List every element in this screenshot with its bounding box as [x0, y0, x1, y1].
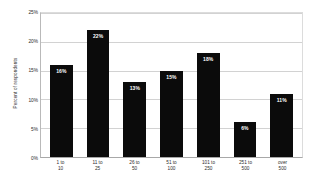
bar-chart: Percent of respondents 0%5%10%15%20%25% …: [0, 0, 310, 196]
x-axis-tick-labels: 1 to 1011 to 2526 to 5051 to 100101 to 2…: [40, 160, 303, 184]
y-axis-tick-label: 10%: [16, 97, 38, 102]
y-axis-tick-label: 0%: [16, 156, 38, 161]
bar-value-label: 6%: [234, 125, 257, 131]
bar-slot: 13%: [116, 13, 153, 157]
bar-series: 16%22%13%15%18%6%11%: [41, 13, 302, 157]
bar-value-label: 18%: [197, 56, 220, 62]
bar-slot: 11%: [263, 13, 300, 157]
bar[interactable]: 13%: [123, 82, 146, 157]
x-axis-tick-label: 26 to 50: [116, 160, 153, 184]
bar-value-label: 16%: [50, 68, 73, 74]
bar[interactable]: 18%: [197, 53, 220, 157]
y-axis-tick-labels: 0%5%10%15%20%25%: [16, 12, 38, 158]
bar-slot: 16%: [43, 13, 80, 157]
x-axis-tick-label: 51 to 100: [153, 160, 190, 184]
x-axis-tick-label: 101 to 250: [190, 160, 227, 184]
y-axis-tick-label: 15%: [16, 68, 38, 73]
bar[interactable]: 16%: [50, 65, 73, 157]
bar[interactable]: 6%: [234, 122, 257, 157]
y-axis-tick-label: 25%: [16, 10, 38, 15]
x-axis-tick-label: 11 to 25: [79, 160, 116, 184]
plot-area: 16%22%13%15%18%6%11%: [40, 12, 303, 158]
bar-value-label: 15%: [160, 74, 183, 80]
bar-slot: 22%: [80, 13, 117, 157]
bar-value-label: 11%: [270, 97, 293, 103]
x-axis-tick-label: over 500: [264, 160, 301, 184]
y-axis-tick-label: 20%: [16, 39, 38, 44]
bar[interactable]: 22%: [87, 30, 110, 157]
y-axis-tick-label: 5%: [16, 126, 38, 131]
bar-slot: 18%: [190, 13, 227, 157]
gridline: [41, 157, 302, 158]
bar[interactable]: 15%: [160, 71, 183, 157]
bar-slot: 6%: [227, 13, 264, 157]
bar[interactable]: 11%: [270, 94, 293, 157]
x-axis-tick-label: 1 to 10: [42, 160, 79, 184]
bar-value-label: 22%: [87, 33, 110, 39]
bar-slot: 15%: [153, 13, 190, 157]
bar-value-label: 13%: [123, 85, 146, 91]
x-axis-tick-label: 251 to 500: [227, 160, 264, 184]
